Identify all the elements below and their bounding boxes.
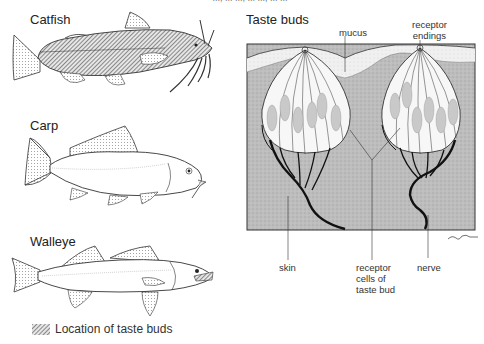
- receptor-cells-line3: taste bud: [356, 284, 395, 295]
- skin-label: skin: [279, 262, 296, 273]
- receptor-cells-line1: receptor: [356, 262, 395, 273]
- receptor-cells-label: receptor cells of taste bud: [356, 262, 395, 295]
- taste-buds-cross-section: [0, 0, 484, 344]
- receptor-cells-line2: cells of: [356, 273, 395, 284]
- nerve-label: nerve: [417, 262, 441, 273]
